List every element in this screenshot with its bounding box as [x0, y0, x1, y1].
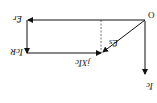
jxic-label: jXĪc [75, 58, 91, 68]
origin-label: O [148, 10, 155, 20]
ic-label: Īc [146, 81, 154, 91]
er-label: Ēr [13, 14, 23, 24]
icr-label: ĪcR [10, 47, 24, 57]
phasor-diagram: O Īc Ēs jXĪc ĪcR Ēr [0, 0, 157, 103]
es-label: Ēs [109, 38, 119, 48]
